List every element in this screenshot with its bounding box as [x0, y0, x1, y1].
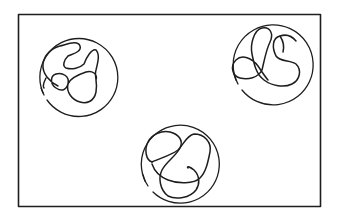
- diagram-canvas: [0, 0, 338, 218]
- polymer-coil-tail: [280, 36, 284, 52]
- polymer-coil-tail: [43, 78, 46, 88]
- coil-diagram: [0, 0, 338, 218]
- sphere-bottom: [141, 125, 219, 203]
- sphere-left: [40, 38, 118, 116]
- sphere-right: [233, 25, 314, 105]
- sphere-boundary-gap: [41, 88, 43, 93]
- polymer-coil: [43, 43, 98, 103]
- polymer-coil: [233, 28, 300, 86]
- container-frame: [19, 15, 321, 207]
- sphere-boundary: [233, 25, 313, 105]
- polymer-coil: [146, 131, 199, 198]
